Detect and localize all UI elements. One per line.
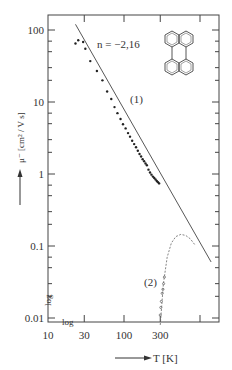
- data-point: [149, 171, 151, 173]
- data-point: [119, 118, 121, 120]
- data-point: [89, 60, 91, 62]
- data-point: [127, 132, 129, 134]
- data-point: [137, 150, 139, 152]
- data-point: [146, 164, 148, 166]
- x-tick-labels: 1030100300: [43, 329, 170, 341]
- mobility-chart: 0.010.1110100 1030100300 μ⁻ [cm² / V s] …: [0, 0, 232, 370]
- x-axis-ticks-top: [84, 15, 200, 22]
- series-1-label: (1): [130, 93, 143, 106]
- x-log-tag: log: [62, 317, 74, 327]
- arrow-head-icon: [18, 169, 23, 177]
- data-point: [84, 47, 86, 49]
- data-point: [113, 106, 115, 108]
- y-tick-label: 0.1: [30, 240, 44, 252]
- series-2-trend: [160, 234, 194, 325]
- y-axis-ticks: [48, 30, 55, 318]
- data-point: [131, 140, 133, 142]
- y-log-tag: log: [43, 294, 53, 306]
- y-tick-label: 10: [33, 96, 45, 108]
- data-point: [122, 123, 124, 125]
- x-tick-label: 10: [43, 329, 55, 341]
- x-tick-label: 300: [152, 329, 169, 341]
- y-axis-ticks-right: [212, 30, 219, 318]
- y-tick-label: 1: [39, 168, 45, 180]
- data-point: [135, 146, 137, 148]
- y-tick-label: 100: [28, 24, 45, 36]
- fit-line: [75, 24, 211, 262]
- data-point: [106, 90, 108, 92]
- data-point: [140, 155, 142, 157]
- fit-exponent-annotation: n = −2,16: [97, 38, 140, 50]
- data-point: [124, 127, 126, 129]
- data-point: [141, 158, 143, 160]
- arrow-head-icon: [144, 356, 152, 361]
- data-series: [74, 24, 211, 325]
- data-point: [82, 41, 84, 43]
- data-point: [96, 70, 98, 72]
- x-axis-title: T [K]: [115, 352, 178, 364]
- data-point: [147, 168, 149, 170]
- data-point: [129, 135, 131, 137]
- data-point: [77, 39, 79, 41]
- data-point: [110, 98, 112, 100]
- y-axis-title: μ⁻ [cm² / V s]: [16, 112, 26, 205]
- data-point: [150, 173, 152, 175]
- x-tick-label: 100: [116, 329, 133, 341]
- series-2-label: (2): [144, 276, 157, 289]
- x-tick-label: 30: [79, 329, 91, 341]
- data-point: [116, 112, 118, 114]
- data-point: [101, 79, 103, 81]
- y-tick-label: 0.01: [25, 312, 44, 324]
- data-point: [133, 143, 135, 145]
- y-axis-label: μ⁻ [cm² / V s]: [16, 112, 26, 163]
- data-point: [158, 182, 160, 184]
- data-point: [143, 160, 145, 162]
- y-tick-labels: 0.010.1110100: [25, 24, 45, 324]
- data-point: [74, 42, 76, 44]
- x-axis-label: T [K]: [153, 352, 178, 364]
- data-point: [138, 153, 140, 155]
- x-axis-ticks: [84, 315, 200, 322]
- perylene-structure-icon: [165, 31, 193, 75]
- plot-frame: [48, 15, 219, 322]
